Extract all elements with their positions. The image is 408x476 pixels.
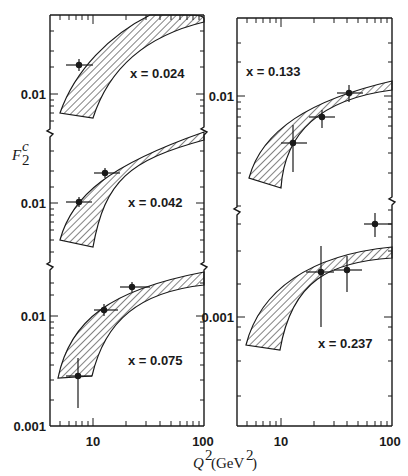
point-p5-3	[364, 213, 392, 237]
x-tick-label-10-right: 10	[274, 434, 288, 449]
panel-label-x0042: x = 0.042	[128, 195, 183, 210]
y-axis-title: F c 2	[11, 138, 30, 168]
y-tick-label-p2: 0.01	[21, 196, 46, 211]
panel-label-x0237: x = 0.237	[318, 336, 373, 351]
data-points	[66, 59, 392, 408]
band-x0133	[249, 81, 392, 188]
y-tick-label-p5: 0.001	[201, 310, 234, 325]
x-tick-label-10-left: 10	[86, 434, 100, 449]
svg-text:): )	[252, 455, 257, 472]
svg-text:2: 2	[22, 152, 30, 168]
y-tick-label-bottom: 0.001	[13, 419, 46, 434]
chart-figure: 0.01 0.01 0.01 0.001 0.01 0.001 10 100 1…	[0, 0, 408, 476]
y-tick-label-p4: 0.01	[209, 89, 234, 104]
panel-label-x0075: x = 0.075	[128, 353, 183, 368]
x-axis-title: Q 2 (GeV 2 )	[193, 447, 257, 472]
right-plot-frame	[234, 18, 395, 426]
band-x0042	[60, 132, 204, 247]
panel-label-x0133: x = 0.133	[246, 64, 301, 79]
panel-label-x0024: x = 0.024	[130, 66, 185, 81]
point-p5-1	[306, 246, 334, 327]
y-tick-label-p1: 0.01	[21, 87, 46, 102]
band-x0237	[246, 247, 392, 350]
x-tick-label-100-right: 100	[379, 434, 401, 449]
svg-text:Q: Q	[193, 455, 204, 471]
svg-text:(GeV: (GeV	[211, 455, 244, 472]
svg-text:F: F	[11, 147, 22, 163]
y-tick-label-p3: 0.01	[21, 309, 46, 324]
